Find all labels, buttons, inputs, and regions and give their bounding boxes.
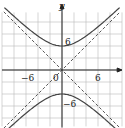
y-tick-6: 6 [65,38,71,47]
x-tick-0: 0 [53,74,59,83]
axes [2,4,122,128]
x-tick-neg6: −6 [21,74,34,83]
y-tick-neg6: −6 [63,100,76,109]
y-axis-label: y [59,1,65,11]
x-tick-6: 6 [95,74,101,83]
